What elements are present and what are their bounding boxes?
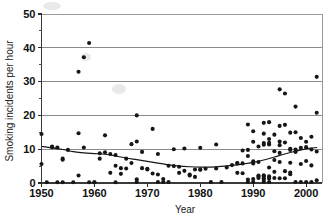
data-point xyxy=(293,105,297,109)
data-point xyxy=(124,166,128,170)
data-point xyxy=(304,159,308,163)
x-axis-tick-labels: 195019601970198019902000 xyxy=(29,187,318,199)
data-point xyxy=(278,151,282,155)
data-point xyxy=(87,180,91,184)
data-point xyxy=(278,124,282,128)
data-point xyxy=(61,180,65,184)
data-point xyxy=(193,175,197,179)
data-point xyxy=(214,142,218,146)
data-point xyxy=(278,139,282,143)
data-point xyxy=(262,180,266,184)
data-point xyxy=(283,169,287,173)
data-point xyxy=(172,147,176,151)
data-point xyxy=(182,146,186,150)
data-point xyxy=(92,180,96,184)
data-point xyxy=(87,41,91,45)
x-tick-label-1980: 1980 xyxy=(188,187,212,199)
data-point xyxy=(156,173,160,177)
data-point xyxy=(219,180,223,184)
data-point xyxy=(235,171,239,175)
data-point xyxy=(135,139,139,143)
data-point xyxy=(55,180,59,184)
data-point xyxy=(283,123,287,127)
data-point xyxy=(283,91,287,95)
data-point xyxy=(262,121,266,125)
data-point xyxy=(241,171,245,175)
data-point xyxy=(283,140,287,144)
data-point xyxy=(272,133,276,137)
data-point xyxy=(114,164,118,168)
data-point xyxy=(267,142,271,146)
y-tick-label-50: 50 xyxy=(23,8,35,20)
data-point xyxy=(98,157,102,161)
y-axis-tick-labels: 01020304050 xyxy=(23,8,35,189)
data-point xyxy=(156,180,160,184)
data-point xyxy=(241,149,245,153)
data-point xyxy=(262,143,266,147)
data-point xyxy=(299,180,303,184)
data-point xyxy=(251,177,255,181)
data-point xyxy=(151,171,155,175)
data-point xyxy=(315,150,319,154)
data-point xyxy=(288,148,292,152)
data-point xyxy=(272,149,276,153)
data-point xyxy=(262,132,266,136)
data-point xyxy=(151,127,155,131)
data-point xyxy=(166,180,170,184)
data-point xyxy=(61,158,65,162)
data-point xyxy=(103,133,107,137)
data-point xyxy=(309,135,313,139)
chart-figure: 01020304050 195019601970198019902000 Smo… xyxy=(0,0,334,218)
data-point xyxy=(288,131,292,135)
data-point xyxy=(161,180,165,184)
plot-frame xyxy=(42,14,323,183)
data-point xyxy=(293,180,297,184)
gridlines xyxy=(42,14,323,149)
data-point xyxy=(39,162,43,166)
x-tick-label-1970: 1970 xyxy=(135,187,159,199)
y-tick-label-30: 30 xyxy=(23,75,35,87)
data-point xyxy=(188,174,192,178)
data-point xyxy=(77,70,81,74)
data-point xyxy=(267,137,271,141)
data-point xyxy=(256,176,260,180)
data-point xyxy=(177,171,181,175)
data-point xyxy=(251,140,255,144)
data-point xyxy=(267,165,271,169)
data-point xyxy=(278,176,282,180)
x-tick-label-1950: 1950 xyxy=(29,187,53,199)
data-point xyxy=(267,180,271,184)
data-point xyxy=(272,158,276,162)
data-point xyxy=(108,171,112,175)
x-tick-label-2000: 2000 xyxy=(294,187,318,199)
data-point xyxy=(119,172,123,176)
data-point xyxy=(156,152,160,156)
data-point xyxy=(135,177,139,181)
x-tick-label-1960: 1960 xyxy=(82,187,106,199)
data-point xyxy=(77,131,81,135)
y-tick-label-40: 40 xyxy=(23,42,35,54)
data-point xyxy=(140,166,144,170)
data-point xyxy=(82,55,86,59)
data-point xyxy=(193,167,197,171)
x-tick-label-1990: 1990 xyxy=(241,187,265,199)
data-point xyxy=(246,148,250,152)
data-point xyxy=(140,150,144,154)
data-point xyxy=(135,113,139,117)
data-point xyxy=(119,166,123,170)
data-point xyxy=(278,143,282,147)
data-point xyxy=(198,168,202,172)
data-point xyxy=(129,161,133,165)
data-point xyxy=(82,145,86,149)
data-point xyxy=(209,180,213,184)
data-point xyxy=(256,144,260,148)
x-axis-title: Year xyxy=(175,204,196,215)
data-point xyxy=(272,170,276,174)
data-point xyxy=(283,176,287,180)
data-point xyxy=(145,167,149,171)
data-point xyxy=(304,140,308,144)
y-tick-label-10: 10 xyxy=(23,143,35,155)
data-point xyxy=(198,146,202,150)
data-point xyxy=(129,142,133,146)
data-point xyxy=(293,130,297,134)
